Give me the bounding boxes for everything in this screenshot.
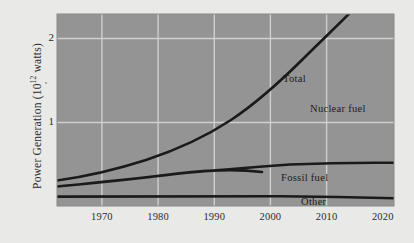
y-axis-ticks: 2 1 bbox=[36, 0, 54, 243]
x-tick-label-1990: 1990 bbox=[194, 211, 234, 222]
series-label-fossil-fuel: Fossil fuel bbox=[281, 172, 328, 183]
chart-canvas bbox=[0, 0, 414, 243]
series-label-total: Total bbox=[283, 73, 306, 84]
x-tick-label-1980: 1980 bbox=[138, 211, 178, 222]
x-tick-label-1970: 1970 bbox=[82, 211, 122, 222]
x-tick-label-2000: 2000 bbox=[250, 211, 290, 222]
chart-figure: Power Generation (1012 watts) 2 1 bbox=[0, 0, 414, 243]
x-tick-label-2010: 2010 bbox=[307, 211, 347, 222]
series-label-other: Other bbox=[301, 196, 326, 207]
y-tick-label-1: 1 bbox=[38, 115, 54, 127]
x-tick-label-2020: 2020 bbox=[363, 211, 403, 222]
y-tick-label-2: 2 bbox=[38, 31, 54, 43]
y-axis-minor-mark bbox=[45, 82, 47, 84]
series-label-nuclear-fuel: Nuclear fuel bbox=[310, 103, 366, 114]
